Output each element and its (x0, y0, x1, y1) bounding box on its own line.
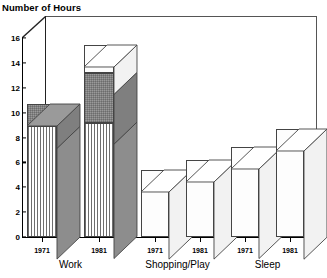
depth-diagonal-line (22, 16, 46, 38)
y-axis-tick-label: 16 (0, 34, 20, 43)
bar-work-1981[interactable] (84, 45, 114, 237)
x-axis-tick-mark (42, 238, 43, 242)
y-axis-tick-mark (22, 62, 26, 63)
group-label-work: Work (59, 259, 82, 270)
bar-sleep-1981[interactable] (276, 129, 304, 237)
y-axis-tick-label: 10 (0, 108, 20, 117)
bar-3d-faces (276, 129, 327, 259)
x-axis-year-label: 1981 (192, 247, 208, 254)
x-axis-year-label: 1971 (34, 247, 50, 254)
bar-shopping-play-1971[interactable] (141, 170, 169, 237)
x-axis-tick-mark (200, 238, 201, 242)
bar-shopping-play-1981[interactable] (186, 160, 214, 237)
y-axis-tick-label: 6 (0, 158, 20, 167)
x-axis-tick-mark (245, 238, 246, 242)
bar-3d-faces (141, 170, 192, 259)
bar-3d-faces (84, 45, 137, 259)
x-axis-tick-mark (290, 238, 291, 242)
y-axis-tick-label: 12 (0, 83, 20, 92)
bar-work-1971[interactable] (27, 104, 57, 237)
bar-3d-faces (231, 147, 282, 259)
x-axis-year-label: 1971 (237, 247, 253, 254)
x-axis-year-label: 1981 (91, 247, 107, 254)
y-axis-tick-mark (22, 236, 26, 237)
y-axis-tick-mark (22, 87, 26, 88)
y-axis-tick-label: 2 (0, 208, 20, 217)
bar-3d-faces (186, 160, 237, 259)
y-axis-tick-mark (22, 162, 26, 163)
x-axis-year-label: 1971 (147, 247, 163, 254)
y-axis-tick-mark (22, 187, 26, 188)
x-axis-year-label: 1981 (282, 247, 298, 254)
group-label-sleep: Sleep (255, 259, 281, 270)
group-label-shopping-play: Shopping/Play (145, 259, 210, 270)
y-axis-tick-label: 4 (0, 183, 20, 192)
y-axis-tick-mark (22, 137, 26, 138)
x-axis-tick-mark (155, 238, 156, 242)
bar-3d-faces (27, 104, 80, 259)
y-axis-tick-mark (22, 212, 26, 213)
y-axis-tick-label: 8 (0, 133, 20, 142)
y-axis-tick-label: 14 (0, 58, 20, 67)
y-axis-tick-mark (22, 37, 26, 38)
bar-sleep-1971[interactable] (231, 147, 259, 237)
y-axis-tick-label: 0 (0, 233, 20, 242)
x-axis-tick-mark (99, 238, 100, 242)
y-axis-tick-mark (22, 112, 26, 113)
